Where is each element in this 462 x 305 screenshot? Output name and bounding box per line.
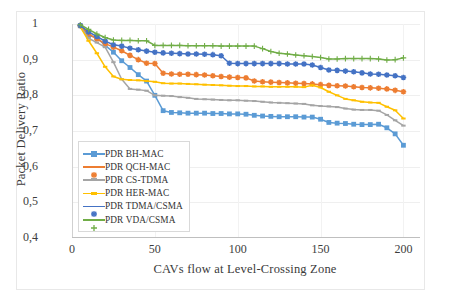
y-axis-tick-label: 1 xyxy=(0,16,38,31)
x-axis-tick-label: 200 xyxy=(380,242,426,257)
legend-label: PDR HER-MAC xyxy=(105,188,169,198)
chart-container: Packet Delivery Ratio CAVs flow at Level… xyxy=(0,0,462,305)
y-axis-tick-label: 0,4 xyxy=(0,230,38,245)
series-4 xyxy=(77,23,406,81)
legend-label: PDR TDMA/CSMA xyxy=(105,201,183,211)
y-axis-tick-label: 0,9 xyxy=(0,52,38,67)
x-axis-title: CAVs flow at Level-Crossing Zone xyxy=(60,262,430,277)
y-axis-tick-label: 0,8 xyxy=(0,87,38,102)
y-axis-tick-label: 0,7 xyxy=(0,123,38,138)
legend-item-5[interactable]: PDR VDA/CSMA xyxy=(83,213,184,226)
x-axis-tick-label: 50 xyxy=(132,242,178,257)
x-axis-tick-label: 100 xyxy=(215,242,261,257)
legend-marker-icon xyxy=(83,187,105,199)
legend-marker-icon xyxy=(83,214,105,226)
legend-label: PDR QCH-MAC xyxy=(105,162,170,172)
legend-marker-icon xyxy=(83,148,105,160)
chart-legend[interactable]: PDR BH-MACPDR QCH-MACPDR CS-TDMAPDR HER-… xyxy=(78,141,190,232)
legend-item-3[interactable]: PDR HER-MAC xyxy=(83,187,184,200)
legend-label: PDR BH-MAC xyxy=(105,149,164,159)
x-axis-tick-label: 0 xyxy=(49,242,95,257)
x-axis-tick-label: 150 xyxy=(298,242,344,257)
legend-item-1[interactable]: PDR QCH-MAC xyxy=(83,160,184,173)
legend-marker-icon xyxy=(83,174,105,186)
legend-label: PDR VDA/CSMA xyxy=(105,215,176,225)
legend-marker-icon xyxy=(83,161,105,173)
legend-marker-icon xyxy=(83,200,105,212)
series-5 xyxy=(77,22,406,63)
legend-item-2[interactable]: PDR CS-TDMA xyxy=(83,173,184,186)
y-axis-tick-label: 0,5 xyxy=(0,194,38,209)
legend-item-4[interactable]: PDR TDMA/CSMA xyxy=(83,200,184,213)
y-axis-tick-label: 0,6 xyxy=(0,159,38,174)
legend-label: PDR CS-TDMA xyxy=(105,175,168,185)
legend-item-0[interactable]: PDR BH-MAC xyxy=(83,147,184,160)
